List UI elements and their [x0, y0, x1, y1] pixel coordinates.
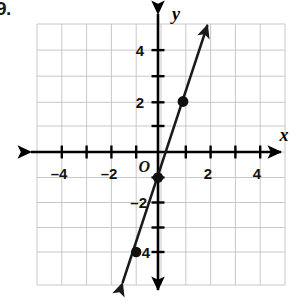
x-tick-label: –2 [101, 165, 118, 182]
origin-label: O [138, 158, 150, 175]
x-tick-label: 2 [204, 165, 212, 182]
y-tick-label: 4 [142, 244, 151, 261]
x-tick-label: 4 [253, 165, 262, 182]
graph-page: 9. [0, 0, 302, 300]
x-axis [31, 146, 281, 159]
y-axis-label: y [170, 4, 181, 24]
coordinate-graph: –4 –2 2 4 4 2 –2 4 O y x [0, 0, 302, 300]
x-axis-label: x [279, 125, 289, 145]
grid-lines [37, 24, 285, 285]
data-point [153, 172, 163, 182]
y-tick-label: 2 [136, 94, 144, 111]
y-tick-label: 4 [136, 42, 145, 59]
y-tick-label: –2 [130, 194, 147, 211]
x-tick-label: –4 [51, 165, 68, 182]
data-point [131, 247, 141, 257]
data-point [178, 96, 189, 107]
